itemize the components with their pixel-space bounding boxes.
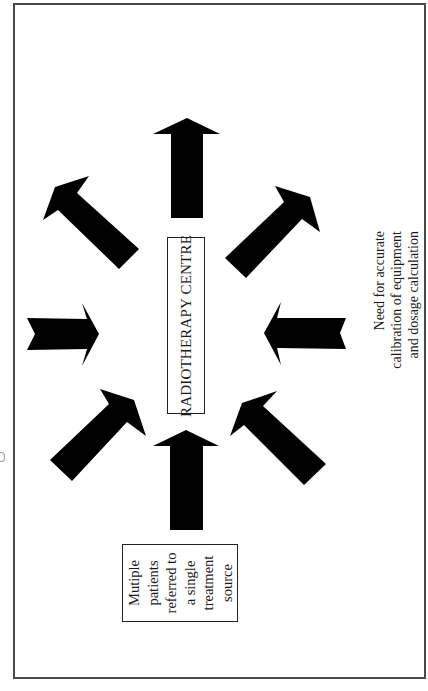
calibration-note-line: calibration of equipment (388, 231, 405, 393)
source-note-line: source (217, 546, 236, 620)
calibration-note-line: and dosage calculation (405, 231, 422, 393)
arrow-left-icon (264, 302, 346, 365)
source-note-line: Mutiple (125, 546, 144, 620)
source-note-line: a single (180, 546, 199, 620)
source-note-line: patients (143, 546, 162, 620)
arrow-up-right-icon (50, 389, 146, 481)
center-node-label: RADIOTHERAPY CENTRE (178, 235, 195, 417)
arrow-up-icon (153, 430, 219, 530)
treatment-source-note: Mutiple patients referred to a single tr… (122, 544, 238, 622)
source-note-line: referred to (162, 546, 181, 620)
source-note-line: treatment (199, 546, 218, 620)
calibration-note: Need for accurate calibration of equipme… (371, 231, 421, 393)
arrow-up-left-icon (230, 391, 326, 485)
arrow-up-icon (153, 118, 220, 218)
calibration-note-text: Need for accurate calibration of equipme… (371, 231, 422, 393)
arrow-right-icon (27, 303, 99, 366)
radiotherapy-centre-node: RADIOTHERAPY CENTRE (167, 237, 205, 414)
arrow-up-right-icon (225, 186, 320, 278)
source-note-text: Mutiple patients referred to a single tr… (125, 546, 236, 620)
calibration-note-line: Need for accurate (371, 231, 388, 393)
arrow-up-left-icon (43, 176, 139, 269)
